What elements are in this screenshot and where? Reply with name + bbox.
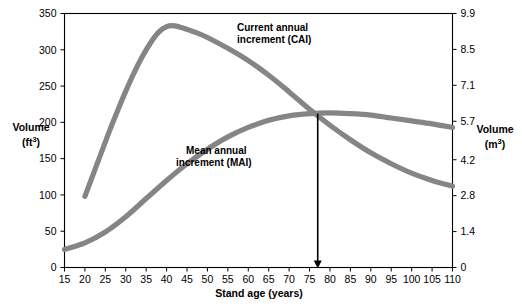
x-tick-label: 50 bbox=[202, 273, 214, 285]
right-tick-label: 1.4 bbox=[461, 225, 476, 237]
x-tick-label: 100 bbox=[403, 273, 421, 285]
rotation-age-arrow bbox=[314, 114, 322, 269]
right-tick-label: 0 bbox=[461, 261, 467, 273]
left-axis-unit-pre: (ft bbox=[22, 136, 33, 148]
x-tick-label: 110 bbox=[444, 273, 461, 285]
right-axis-unit-post: ) bbox=[502, 138, 506, 150]
x-tick-label: 60 bbox=[242, 273, 254, 285]
right-tick-label: 7.1 bbox=[461, 79, 476, 91]
right-axis-title-line2: (m3) bbox=[485, 137, 506, 150]
left-axis-title-line2: (ft3) bbox=[22, 135, 40, 148]
left-axis-title-line1: Volume bbox=[12, 121, 49, 133]
volume-vs-stand-age-chart: 050100150200250300350 01.42.84.25.77.18.… bbox=[0, 0, 522, 306]
x-axis-title: Stand age (years) bbox=[215, 287, 303, 299]
cai-label-line2: increment (CAI) bbox=[237, 34, 311, 45]
mai-label-line2: increment (MAI) bbox=[176, 157, 252, 168]
right-axis-unit-pre: (m bbox=[485, 138, 498, 150]
right-tick-label: 8.5 bbox=[461, 43, 476, 55]
right-tick-label: 4.2 bbox=[461, 154, 476, 166]
x-tick-label: 90 bbox=[365, 273, 377, 285]
x-tick-label: 85 bbox=[345, 273, 357, 285]
left-tick-label: 150 bbox=[39, 152, 57, 164]
right-tick-label: 9.9 bbox=[461, 7, 476, 19]
left-tick-label: 50 bbox=[45, 225, 57, 237]
right-axis-tick-labels: 01.42.84.25.77.18.59.9 bbox=[461, 7, 476, 273]
x-tick-label: 15 bbox=[59, 273, 71, 285]
right-axis-title-line1: Volume bbox=[476, 123, 513, 135]
x-tick-label: 45 bbox=[181, 273, 193, 285]
x-tick-label: 95 bbox=[385, 273, 397, 285]
right-tick-label: 5.7 bbox=[461, 115, 476, 127]
x-tick-label: 75 bbox=[304, 273, 316, 285]
x-tick-label: 70 bbox=[283, 273, 295, 285]
left-tick-label: 350 bbox=[39, 7, 57, 19]
x-tick-label: 105 bbox=[423, 273, 441, 285]
x-tick-label: 80 bbox=[324, 273, 336, 285]
right-axis-ticks bbox=[453, 14, 457, 268]
cai-curve bbox=[85, 26, 453, 197]
x-axis-ticks bbox=[65, 268, 453, 272]
x-tick-label: 25 bbox=[99, 273, 111, 285]
x-tick-label: 65 bbox=[263, 273, 275, 285]
plot-frame bbox=[65, 14, 453, 268]
left-axis-unit-post: ) bbox=[37, 136, 41, 148]
chart-container: 050100150200250300350 01.42.84.25.77.18.… bbox=[0, 0, 522, 306]
left-axis-ticks bbox=[61, 14, 65, 268]
mai-label-line1: Mean annual bbox=[186, 145, 247, 156]
cai-label-line1: Current annual bbox=[237, 22, 308, 33]
x-tick-label: 40 bbox=[161, 273, 173, 285]
left-tick-label: 100 bbox=[39, 189, 57, 201]
x-tick-label: 55 bbox=[222, 273, 234, 285]
left-tick-label: 250 bbox=[39, 80, 57, 92]
left-tick-label: 0 bbox=[51, 261, 57, 273]
x-tick-label: 20 bbox=[79, 273, 91, 285]
right-tick-label: 2.8 bbox=[461, 189, 476, 201]
mai-curve bbox=[65, 113, 453, 249]
x-axis-tick-labels: 1520253035404550556065707580859095100105… bbox=[59, 273, 461, 285]
left-axis-tick-labels: 050100150200250300350 bbox=[39, 7, 57, 273]
x-tick-label: 30 bbox=[120, 273, 132, 285]
x-tick-label: 35 bbox=[140, 273, 152, 285]
left-tick-label: 300 bbox=[39, 44, 57, 56]
